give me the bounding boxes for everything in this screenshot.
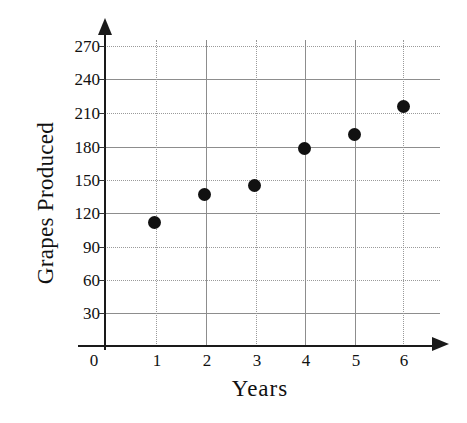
y-tick-mark [98, 213, 105, 214]
y-axis-line [104, 30, 106, 350]
scatter-chart: 270 240 210 180 150 120 90 60 30 0 1 2 3… [0, 0, 467, 423]
y-axis-arrow-icon [98, 18, 112, 35]
y-tick-mark [98, 313, 105, 314]
gridline-x-4 [305, 40, 306, 346]
x-tick-label-0: 0 [79, 352, 109, 370]
y-tick-mark [98, 180, 105, 181]
y-axis-title: Grapes Produced [33, 73, 59, 333]
data-point [298, 142, 311, 155]
gridline-x-5 [355, 40, 356, 346]
gridline-x-6 [403, 40, 404, 346]
data-point [248, 179, 261, 192]
x-tick-label-3: 3 [242, 352, 272, 370]
y-tick-mark [98, 79, 105, 80]
y-tick-mark [98, 147, 105, 148]
data-point [397, 100, 410, 113]
data-point [148, 216, 161, 229]
data-point [348, 128, 361, 141]
x-tick-label-6: 6 [389, 352, 419, 370]
x-axis-title: Years [105, 376, 415, 402]
y-tick-mark [98, 46, 105, 47]
x-axis-arrow-icon [432, 337, 449, 351]
gridline-x-3 [256, 40, 257, 346]
y-tick-mark [98, 280, 105, 281]
x-axis-line [78, 345, 434, 347]
x-tick-label-5: 5 [341, 352, 371, 370]
data-point [198, 188, 211, 201]
x-tick-label-2: 2 [192, 352, 222, 370]
plot-area [105, 40, 440, 346]
x-tick-label-4: 4 [291, 352, 321, 370]
y-tick-mark [98, 113, 105, 114]
gridline-x-1 [156, 40, 157, 346]
y-tick-mark [98, 247, 105, 248]
x-tick-label-1: 1 [142, 352, 172, 370]
y-tick-label: 270 [40, 38, 100, 55]
